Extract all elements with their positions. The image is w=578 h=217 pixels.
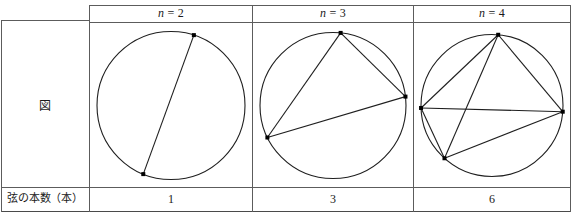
- variable-n: n: [320, 6, 326, 20]
- circle-diagram-n4: [415, 23, 569, 186]
- row-header-chord-count: 弦の本数（本）: [1, 191, 89, 207]
- circle-point-marker: [442, 156, 446, 160]
- chord-count-table: n = 2 n = 3 n = 4 図 弦の本数（本） 1 3 6: [0, 0, 578, 217]
- circle-point-marker: [192, 33, 196, 37]
- column-header-n3: n = 3: [253, 5, 413, 22]
- circle-point-marker: [496, 33, 500, 37]
- column-header-n4: n = 4: [414, 5, 570, 22]
- circle-diagram-n2: [91, 23, 251, 186]
- circle-point-marker: [561, 110, 565, 114]
- table-left-border: [1, 20, 2, 212]
- equation-n3: = 3: [330, 6, 346, 20]
- figure-row-bottom-border: [1, 187, 570, 188]
- variable-n: n: [158, 6, 164, 20]
- circle-point-marker: [265, 136, 269, 140]
- table-bottom-border: [1, 211, 570, 212]
- chord-segment: [421, 108, 563, 112]
- chord-segment: [267, 97, 405, 138]
- variable-n: n: [479, 6, 485, 20]
- circle-point-marker: [403, 95, 407, 99]
- circle-outline: [260, 33, 406, 179]
- table-right-border: [570, 5, 571, 212]
- chord-segment: [267, 33, 340, 138]
- figure-cell-n2: [90, 23, 252, 186]
- circle-outline: [97, 32, 245, 180]
- circle-point-marker: [419, 106, 423, 110]
- chord-segment: [341, 33, 406, 97]
- chord-count-value-n3: 3: [253, 191, 413, 207]
- table-top-border-left: [1, 20, 89, 21]
- equation-n4: = 4: [489, 6, 505, 20]
- figure-cell-n3: [253, 23, 413, 186]
- column-header-n2: n = 2: [90, 5, 252, 22]
- chord-segment: [421, 35, 498, 108]
- circle-diagram-n3: [254, 23, 412, 186]
- chord-count-value-n4: 6: [414, 191, 570, 207]
- chord-segment: [421, 108, 444, 158]
- chord-segment: [143, 35, 194, 174]
- circle-point-marker: [141, 172, 145, 176]
- circle-point-marker: [339, 31, 343, 35]
- equation-n2: = 2: [168, 6, 184, 20]
- row-header-figure: 図: [1, 98, 89, 114]
- circle-outline: [421, 35, 563, 177]
- figure-cell-n4: [414, 23, 570, 186]
- chord-count-value-n2: 1: [90, 191, 252, 207]
